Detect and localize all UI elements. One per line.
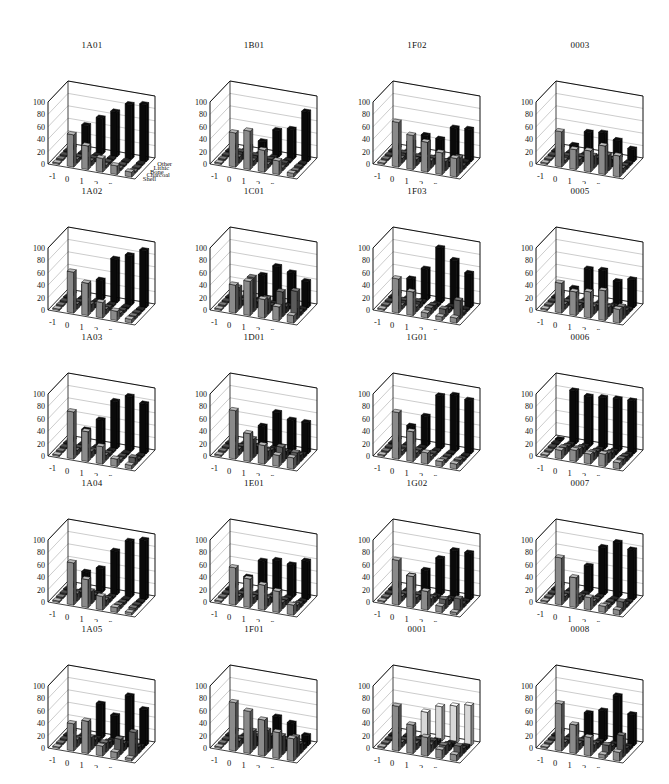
bar-shell: [421, 449, 430, 464]
svg-text:-1: -1: [211, 755, 218, 765]
chart-title: 0005: [496, 186, 664, 196]
y-axis-labels: 020406080100: [33, 244, 45, 315]
svg-text:0: 0: [390, 758, 394, 768]
bar-shell: [287, 312, 296, 323]
bar-shell: [258, 147, 267, 172]
bar3d-chart: 020406080100-101234: [496, 346, 664, 476]
bars: [53, 101, 149, 177]
y-axis-labels: 020406080100: [33, 536, 45, 607]
bar-other: [96, 565, 105, 592]
bar-shell: [96, 593, 105, 610]
svg-text:60: 60: [37, 415, 45, 424]
svg-text:1: 1: [241, 322, 245, 330]
svg-text:80: 80: [199, 548, 207, 557]
chart-panel: 0005020406080100-101234: [496, 186, 664, 336]
bar-shell: [599, 287, 608, 320]
bar-shell: [392, 119, 401, 167]
bar-shell: [378, 452, 387, 457]
svg-text:100: 100: [195, 536, 207, 545]
chart-panel: 1A02020406080100-101234: [8, 186, 176, 336]
bar-charcoal: [454, 595, 463, 611]
bar-shell: [229, 699, 238, 751]
svg-text:20: 20: [37, 294, 45, 303]
svg-text:2: 2: [419, 763, 423, 768]
svg-text:2: 2: [256, 617, 260, 622]
svg-text:60: 60: [525, 269, 533, 278]
bar-other: [570, 388, 579, 444]
bars: [541, 539, 637, 615]
svg-text:40: 40: [37, 135, 45, 144]
bar-shell: [287, 170, 296, 177]
svg-text:-1: -1: [537, 171, 544, 181]
svg-text:1: 1: [241, 468, 245, 476]
bar-other: [436, 393, 445, 449]
svg-text:20: 20: [199, 440, 207, 449]
svg-text:3: 3: [433, 327, 437, 330]
svg-text:20: 20: [362, 148, 370, 157]
bar-shell: [407, 132, 416, 170]
bar-shell: [436, 458, 445, 466]
bar-shell: [82, 428, 91, 461]
y-axis-labels: 020406080100: [33, 98, 45, 169]
bar-shell: [570, 574, 579, 607]
svg-text:80: 80: [362, 548, 370, 557]
bar-other: [96, 115, 105, 154]
bar3d-chart: 020406080100-101234: [496, 492, 664, 622]
chart-panel: 1B01020406080100-101234: [170, 40, 338, 190]
bar3d-chart: 020406080100-101234: [170, 492, 338, 622]
bar-other: [421, 266, 430, 300]
svg-text:40: 40: [199, 281, 207, 290]
svg-text:100: 100: [195, 98, 207, 107]
svg-text:20: 20: [525, 732, 533, 741]
bars: [53, 247, 149, 323]
svg-text:-1: -1: [49, 463, 56, 473]
bar-shell: [450, 461, 459, 469]
svg-text:1: 1: [404, 760, 408, 768]
svg-text:80: 80: [362, 110, 370, 119]
svg-text:80: 80: [199, 694, 207, 703]
bar-shell: [436, 313, 445, 320]
svg-text:60: 60: [362, 269, 370, 278]
chart-panel: 0007020406080100-101234: [496, 478, 664, 628]
bar3d-chart: 020406080100-101234: [333, 638, 501, 768]
bar-shell: [229, 282, 238, 313]
svg-text:2: 2: [582, 763, 586, 768]
bar-shell: [244, 128, 253, 170]
svg-text:3: 3: [108, 181, 112, 184]
bar-shell: [570, 447, 579, 462]
chart-panel: 1G02020406080100-101234: [333, 478, 501, 628]
svg-text:2: 2: [94, 471, 98, 476]
bar-other: [584, 563, 593, 593]
bar-other: [111, 256, 120, 303]
bar-other: [96, 277, 105, 300]
bar3d-chart: 020406080100-101234: [333, 54, 501, 184]
svg-text:80: 80: [525, 110, 533, 119]
svg-text:0: 0: [529, 744, 533, 753]
bar-other: [96, 701, 105, 739]
svg-text:40: 40: [362, 427, 370, 436]
svg-text:100: 100: [33, 98, 45, 107]
svg-text:80: 80: [199, 402, 207, 411]
bar-other: [628, 398, 637, 454]
chart-panel: 1A04020406080100-101234: [8, 478, 176, 628]
bar-shell: [82, 576, 91, 607]
svg-text:2: 2: [582, 325, 586, 330]
svg-text:60: 60: [362, 415, 370, 424]
bar-shell: [570, 146, 579, 169]
svg-text:0: 0: [203, 598, 207, 607]
bar-shell: [125, 169, 134, 177]
bar-shell: [613, 306, 622, 323]
bar-other: [302, 109, 311, 162]
svg-text:3: 3: [270, 327, 274, 330]
y-axis-labels: 020406080100: [521, 682, 533, 753]
bar-shell: [570, 722, 579, 754]
chart-panel: 1F03020406080100-101234: [333, 186, 501, 336]
svg-text:0: 0: [366, 598, 370, 607]
chart-title: 0007: [496, 478, 664, 488]
bar-other: [140, 706, 149, 745]
chart-title: 0001: [333, 624, 501, 634]
depth-axis-labels: ShellCharcoalBoneLithicOther: [143, 160, 173, 182]
svg-text:1: 1: [567, 760, 571, 768]
svg-text:3: 3: [433, 765, 437, 768]
bar-shell: [541, 160, 550, 165]
